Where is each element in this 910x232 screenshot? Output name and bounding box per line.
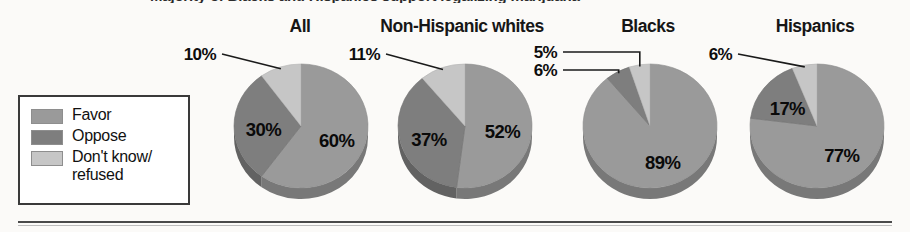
pie-leader-line-all-2 [222,54,281,69]
bottom-rule [18,221,892,223]
pie-svg-blacks [581,58,721,207]
pie-value-hispanics-2: 6% [709,45,732,65]
legend-swatch-dont-know [31,151,63,166]
pie-value-hispanics-1: 17% [770,98,805,120]
pie-chart-non-hispanic-whites: 52%37%11% [396,58,536,207]
pie-value-blacks-1: 6% [534,61,557,81]
pie-title-blacks: Blacks [621,16,675,37]
pie-value-non-hispanic-whites-0: 52% [485,121,520,143]
legend-label-dont-know: Don't know/ refused [72,148,152,184]
pie-value-blacks-0: 89% [645,152,680,174]
pie-title-all: All [289,16,310,37]
pie-title-non-hispanic-whites: Non-Hispanic whites [380,16,544,37]
pie-value-all-1: 30% [246,119,281,141]
legend-item-oppose: Oppose [31,127,188,145]
pie-leader-line-blacks-1 [563,70,619,73]
pie-title-hispanics: Hispanics [776,16,855,37]
pie-leader-line-blacks-2 [563,52,640,67]
pie-chart-all: 60%30%10% [232,58,372,207]
pie-value-non-hispanic-whites-2: 11% [349,45,380,65]
legend-item-favor: Favor [31,106,188,124]
pie-chart-blacks: 89%6%5% [581,58,721,207]
legend-item-dont-know: Don't know/ refused [31,148,188,184]
figure-canvas: Majority of Blacks and Hispanics support… [0,0,910,232]
legend-label-favor: Favor [72,106,111,124]
pie-value-blacks-2: 5% [534,43,557,63]
legend-swatch-oppose [31,130,63,145]
legend-label-oppose: Oppose [72,127,126,145]
legend: Favor Oppose Don't know/ refused [18,95,190,205]
pie-leader-line-non-hispanic-whites-2 [386,54,443,69]
pie-value-non-hispanic-whites-1: 37% [411,129,446,151]
clipped-title-text: Majority of Blacks and Hispanics support… [150,0,790,3]
clipped-title: Majority of Blacks and Hispanics support… [150,0,790,3]
pie-value-all-0: 60% [319,130,354,152]
pie-leader-line-hispanics-2 [738,54,805,67]
pie-value-hispanics-0: 77% [824,145,859,167]
pie-value-all-2: 10% [184,45,216,65]
pie-chart-hispanics: 77%17%6% [748,58,888,207]
bottom-rule-shadow [18,225,892,226]
legend-swatch-favor [31,109,63,124]
pie-svg-hispanics [748,58,888,207]
